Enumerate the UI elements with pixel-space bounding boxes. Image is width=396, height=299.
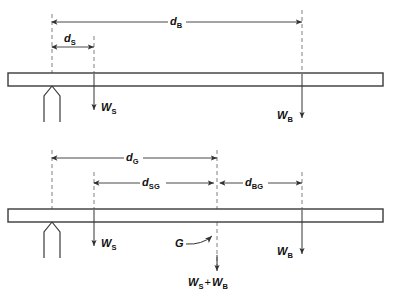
force-label-ws-lower-subscript: S xyxy=(111,243,116,252)
beam-lower-body xyxy=(8,209,383,222)
dimension-label-d-SG-symbol: d xyxy=(142,176,149,188)
support-lower-shape xyxy=(44,222,60,258)
force-label-resultant-first-subscript: S xyxy=(198,282,203,291)
lower-diagram xyxy=(8,150,383,271)
support-lower xyxy=(44,222,60,258)
dimension-label-d-BG: dBG xyxy=(245,177,263,188)
force-label-resultant-first-symbol: W xyxy=(188,276,198,288)
support-upper xyxy=(44,86,60,122)
force-label-wb-upper-subscript: B xyxy=(287,115,293,124)
dimension-label-d-S: dS xyxy=(64,33,76,44)
dimension-label-d-B: dB xyxy=(170,16,182,27)
force-label-ws-upper-subscript: S xyxy=(111,107,116,116)
force-label-wb-lower: WB xyxy=(277,246,293,257)
force-label-resultant-second-symbol: W xyxy=(212,276,222,288)
centroid-leader-arrow-icon xyxy=(186,236,212,244)
dimension-label-d-SG-subscript: SG xyxy=(149,182,160,191)
force-label-wb-upper: WB xyxy=(277,110,293,121)
force-label-ws-lower: WS xyxy=(101,238,117,249)
force-label-ws-upper: WS xyxy=(101,102,117,113)
centroid-label-G: G xyxy=(175,238,184,249)
dimension-label-d-G-subscript: G xyxy=(133,157,139,166)
centroid-leader xyxy=(186,236,212,244)
dimension-label-d-G-symbol: d xyxy=(126,151,133,163)
force-label-resultant-operator: + xyxy=(204,276,212,288)
dimension-label-d-B-subscript: B xyxy=(177,21,183,30)
force-label-resultant: WS+WB xyxy=(188,277,228,288)
dimension-label-d-SG: dSG xyxy=(142,177,160,188)
support-upper-shape xyxy=(44,86,60,122)
force-label-wb-lower-subscript: B xyxy=(287,251,293,260)
beam-diagram-figure xyxy=(0,0,396,299)
dimension-label-d-B-symbol: d xyxy=(170,15,177,27)
centroid-label-G-symbol: G xyxy=(175,237,184,249)
beam-upper xyxy=(8,73,383,86)
force-label-wb-lower-symbol: W xyxy=(277,245,287,257)
dimension-label-d-S-subscript: S xyxy=(71,38,76,47)
upper-diagram xyxy=(8,10,383,122)
beam-upper-body xyxy=(8,73,383,86)
beam-lower xyxy=(8,209,383,222)
force-label-resultant-second-subscript: B xyxy=(222,282,228,291)
dimension-label-d-BG-symbol: d xyxy=(245,176,252,188)
dimension-label-d-G: dG xyxy=(126,152,139,163)
dimension-label-d-S-symbol: d xyxy=(64,32,71,44)
force-label-ws-upper-symbol: W xyxy=(101,101,111,113)
force-label-ws-lower-symbol: W xyxy=(101,237,111,249)
dimension-label-d-BG-subscript: BG xyxy=(252,182,264,191)
force-label-wb-upper-symbol: W xyxy=(277,109,287,121)
